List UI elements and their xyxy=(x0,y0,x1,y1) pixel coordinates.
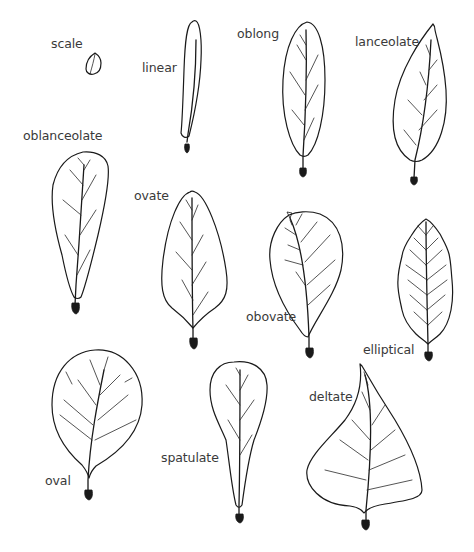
leaf-linear-illustration xyxy=(181,21,201,153)
label-obovate: obovate xyxy=(246,309,296,324)
label-oblong: oblong xyxy=(237,26,279,41)
label-ovate: ovate xyxy=(134,188,169,203)
leaf-oblong-illustration xyxy=(283,22,325,177)
leaf-oblanceolate-illustration xyxy=(52,152,108,314)
label-spatulate: spatulate xyxy=(161,450,219,465)
leaf-shapes-diagram: scale linear oblong lanceolate oblanceol… xyxy=(0,0,474,552)
label-oval: oval xyxy=(45,473,71,488)
label-lanceolate: lanceolate xyxy=(355,34,419,49)
leaf-illustrations xyxy=(0,0,474,552)
leaf-spatulate-illustration xyxy=(210,362,267,523)
leaf-scale-illustration xyxy=(86,53,101,74)
label-elliptical: elliptical xyxy=(363,342,414,357)
leaf-ovate-illustration xyxy=(162,191,227,349)
label-oblanceolate: oblanceolate xyxy=(23,128,102,143)
leaf-elliptical-illustration xyxy=(398,219,453,361)
label-scale: scale xyxy=(51,36,83,51)
label-linear: linear xyxy=(142,60,177,75)
label-deltate: deltate xyxy=(309,389,353,404)
leaf-obovate-illustration xyxy=(270,212,343,358)
